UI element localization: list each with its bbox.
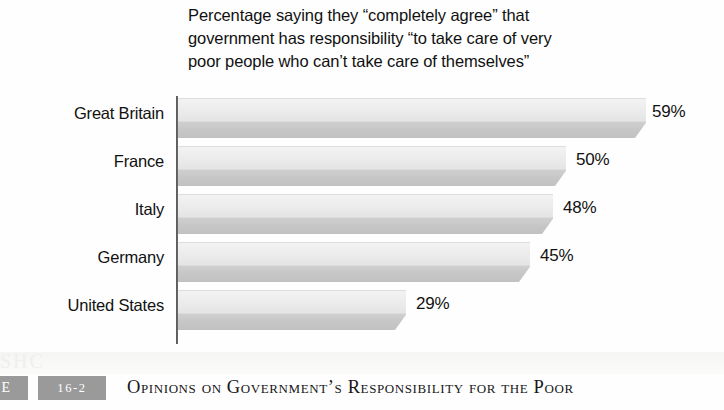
bar-face (178, 194, 553, 234)
bar-united-states[interactable] (178, 290, 406, 330)
bar-row: France 50% (0, 144, 724, 192)
page-bleed-text: SHC (0, 350, 45, 373)
category-label-italy: Italy (0, 198, 164, 220)
bar-highlight (178, 98, 646, 99)
figure-caption-title: Opinions on Government’s Responsibility … (127, 377, 574, 398)
bar-france[interactable] (178, 146, 566, 186)
bar-row: Germany 45% (0, 240, 724, 288)
bar-row: Great Britain 59% (0, 96, 724, 144)
figure-number-badge: 16-2 (38, 376, 106, 400)
bar-germany[interactable] (178, 242, 530, 282)
value-label-germany: 45% (540, 245, 573, 267)
plot-area: Great Britain 59% France 50% Italy 48% (0, 92, 724, 350)
value-label-great-britain: 59% (652, 101, 685, 123)
bar-highlight (178, 146, 566, 147)
bar-face (178, 146, 566, 186)
value-label-italy: 48% (563, 197, 596, 219)
value-label-united-states: 29% (416, 293, 449, 315)
figure-word-badge: RE (0, 376, 28, 400)
category-label-united-states: United States (0, 294, 164, 316)
category-label-germany: Germany (0, 246, 164, 268)
bar-great-britain[interactable] (178, 98, 646, 138)
category-label-great-britain: Great Britain (0, 102, 164, 124)
bar-row: United States 29% (0, 288, 724, 336)
chart-title: Percentage saying they “completely agree… (188, 4, 658, 73)
bar-row: Italy 48% (0, 192, 724, 240)
bar-italy[interactable] (178, 194, 553, 234)
bar-face (178, 242, 530, 282)
figure-caption-bar: RE 16-2 Opinions on Government’s Respons… (0, 376, 724, 402)
bar-face (178, 98, 646, 138)
category-label-france: France (0, 150, 164, 172)
bar-highlight (178, 242, 530, 243)
value-label-france: 50% (576, 149, 609, 171)
bar-highlight (178, 194, 553, 195)
bar-highlight (178, 290, 406, 291)
page-bleed-band (0, 352, 724, 374)
figure-root: Percentage saying they “completely agree… (0, 0, 724, 410)
bar-face (178, 290, 406, 330)
